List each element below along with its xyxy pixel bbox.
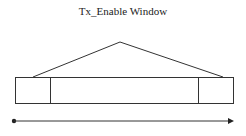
window-ramp (33, 42, 223, 77)
time-axis-arrowhead-icon (228, 118, 234, 124)
window-bar (16, 78, 234, 104)
timing-diagram (0, 0, 246, 136)
